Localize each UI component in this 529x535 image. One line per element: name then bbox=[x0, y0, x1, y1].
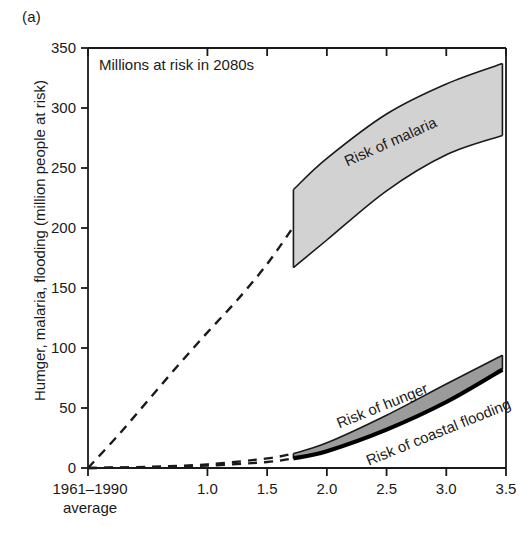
x-tick-label: 2.0 bbox=[316, 480, 337, 497]
x-tick-label-line2: average bbox=[63, 499, 117, 516]
y-tick-label: 0 bbox=[68, 459, 76, 476]
dashed-projection-line bbox=[88, 458, 293, 468]
y-tick-label: 350 bbox=[51, 39, 76, 56]
y-tick-label: 50 bbox=[59, 399, 76, 416]
dashed-projection-line bbox=[88, 227, 293, 468]
chart-plot-area: 0501001502002503003501961–1990average1.0… bbox=[0, 0, 529, 535]
figure-panel-a: (a) Humger, malaria, flooding (million p… bbox=[0, 0, 529, 535]
y-tick-label: 150 bbox=[51, 279, 76, 296]
x-tick-label: 2.5 bbox=[376, 480, 397, 497]
x-tick-label: 3.5 bbox=[496, 480, 517, 497]
y-tick-label: 100 bbox=[51, 339, 76, 356]
dashed-projection-lines-group bbox=[88, 227, 293, 468]
x-tick-label: 1.5 bbox=[257, 480, 278, 497]
x-tick-label: 1.0 bbox=[197, 480, 218, 497]
y-tick-label: 200 bbox=[51, 219, 76, 236]
y-tick-label: 300 bbox=[51, 99, 76, 116]
x-tick-label: 3.0 bbox=[436, 480, 457, 497]
x-tick-label: 1961–1990 bbox=[52, 480, 127, 497]
y-tick-label: 250 bbox=[51, 159, 76, 176]
band-area bbox=[293, 64, 502, 268]
